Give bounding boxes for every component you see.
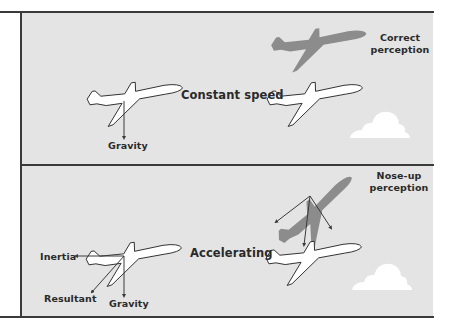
plane-top-left <box>86 76 187 129</box>
ghost-plane-correct-perception <box>270 22 371 75</box>
nose-up-perception-label: Nose-up perception <box>369 170 429 194</box>
cloud-bottom <box>352 264 412 290</box>
accelerating-label: Accelerating <box>190 246 273 260</box>
correct-perception-line1: Correct <box>370 32 430 44</box>
nose-up-perception-line1: Nose-up <box>369 170 429 182</box>
inertia-label: Inertia <box>40 251 76 262</box>
gravity-label-top: Gravity <box>108 140 148 151</box>
gravity-label-bottom: Gravity <box>109 298 149 309</box>
correct-perception-line2: perception <box>370 44 430 56</box>
constant-speed-label: Constant speed <box>181 88 284 102</box>
correct-perception-label: Correct perception <box>370 32 430 56</box>
resultant-label: Resultant <box>44 293 97 304</box>
diagram-frame: Gravity Constant speed Correct perceptio… <box>0 0 449 329</box>
cloud-top <box>350 112 410 138</box>
nose-up-perception-line2: perception <box>369 182 429 194</box>
plane-top-right <box>266 76 367 129</box>
plane-bottom-left <box>85 236 186 289</box>
